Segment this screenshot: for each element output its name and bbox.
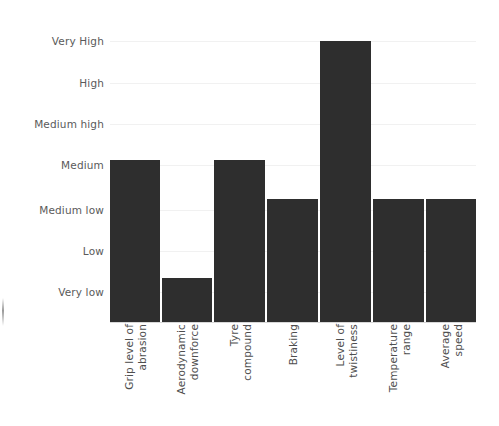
bar-series (110, 36, 476, 323)
x-tick-label-text: Aerodynamicdownforce (175, 324, 200, 395)
x-tick-label: Aerodynamicdownforce (175, 324, 200, 395)
bar[interactable] (267, 199, 318, 323)
x-tick-label-text: Level oftwistiness (333, 324, 358, 378)
x-axis-baseline (110, 322, 476, 323)
bar[interactable] (373, 199, 424, 323)
y-tick-label: Medium (0, 160, 104, 171)
x-tick-label: Tyrecompound (227, 324, 252, 381)
x-axis-labels: Grip level ofabrasion Aerodynamicdownfor… (110, 324, 476, 426)
bar[interactable] (320, 41, 371, 323)
y-tick-label: Very low (0, 287, 104, 298)
x-tick-slot: Level oftwistiness (320, 324, 371, 426)
x-tick-slot: Aerodynamicdownforce (162, 324, 212, 426)
x-tick-label-text: Averagespeed (439, 324, 464, 368)
x-tick-label-text: Braking (286, 324, 298, 365)
x-tick-slot: Averagespeed (426, 324, 476, 426)
x-tick-slot: Grip level ofabrasion (110, 324, 160, 426)
x-tick-slot: Braking (267, 324, 318, 426)
y-axis-labels: Very High High Medium high Medium Medium… (0, 0, 104, 426)
x-tick-label-text: Temperaturerange (386, 324, 411, 392)
x-tick-label: Level oftwistiness (333, 324, 358, 378)
x-tick-label-text: Grip level ofabrasion (123, 324, 148, 390)
y-tick-label: Very High (0, 36, 104, 47)
bar[interactable] (110, 160, 160, 323)
y-tick-label: Medium low (0, 205, 104, 216)
x-tick-slot: Temperaturerange (373, 324, 424, 426)
bar[interactable] (214, 160, 265, 323)
x-tick-label: Grip level ofabrasion (123, 324, 148, 390)
y-tick-label: Medium high (0, 119, 104, 130)
x-tick-label: Averagespeed (439, 324, 464, 368)
bar[interactable] (426, 199, 476, 323)
plot-area (110, 36, 476, 323)
y-tick-label: Low (0, 246, 104, 257)
x-tick-label: Temperaturerange (386, 324, 411, 392)
bar[interactable] (162, 278, 212, 323)
y-tick-label: High (0, 78, 104, 89)
x-tick-label: Braking (286, 324, 299, 365)
x-tick-slot: Tyrecompound (214, 324, 265, 426)
bar-chart: Very High High Medium high Medium Medium… (0, 0, 499, 426)
x-tick-label-text: Tyrecompound (227, 324, 252, 381)
